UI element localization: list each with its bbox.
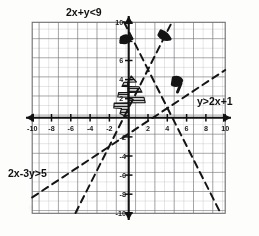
x-tick-label: 10 xyxy=(221,124,229,133)
y-tick-label: -10 xyxy=(116,209,126,218)
x-tick-label: -10 xyxy=(27,124,37,133)
y-tick-label: 4 xyxy=(119,75,123,84)
x-tick-label: -2 xyxy=(106,124,112,133)
y-tick-label: 6 xyxy=(119,56,123,65)
x-tick-label: 2 xyxy=(146,124,150,133)
y-tick-label: -4 xyxy=(120,152,126,161)
y-tick-label: 10 xyxy=(115,18,123,27)
x-tick-label: -4 xyxy=(87,124,93,133)
x-tick-label: 4 xyxy=(165,124,169,133)
x-tick-label: -6 xyxy=(68,124,74,133)
label-y-gt-2x-plus-1: y>2x+1 xyxy=(197,95,233,107)
y-tick-label: -8 xyxy=(120,190,126,199)
x-tick-label: 6 xyxy=(185,124,189,133)
y-tick-label: -6 xyxy=(120,171,126,180)
x-tick-label: -8 xyxy=(48,124,54,133)
marker-2x-plus-y-upper-left xyxy=(121,36,131,43)
graph-figure: -10 -8 -6 -4 -2 2 4 6 8 10 xyxy=(0,0,259,236)
label-2x-minus-3y: 2x-3y>5 xyxy=(8,167,47,179)
x-tick-label: 8 xyxy=(204,124,208,133)
coordinate-plane-svg: -10 -8 -6 -4 -2 2 4 6 8 10 xyxy=(0,0,259,236)
y-tick-label: 2 xyxy=(119,94,123,103)
label-2x-plus-y: 2x+y<9 xyxy=(66,6,102,18)
